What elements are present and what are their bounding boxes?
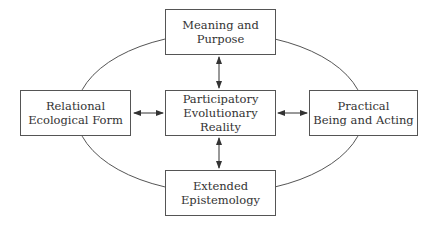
node-label-line: Being and Acting: [313, 113, 413, 127]
diagram-canvas: Meaning and Purpose Relational Ecologica…: [0, 0, 437, 228]
node-label-line: Evolutionary Reality: [166, 106, 275, 134]
node-label-line: Practical: [338, 99, 390, 113]
node-label-line: Ecological Form: [28, 113, 123, 127]
node-label-line: Purpose: [197, 32, 245, 46]
node-label-line: Meaning and: [182, 18, 259, 32]
node-participatory-evolutionary-reality: Participatory Evolutionary Reality: [165, 90, 276, 136]
node-label-line: Participatory: [183, 92, 259, 106]
node-extended-epistemology: Extended Epistemology: [165, 170, 276, 216]
node-relational-ecological-form: Relational Ecological Form: [20, 90, 131, 136]
node-label-line: Extended: [193, 179, 248, 193]
node-label-line: Relational: [46, 99, 105, 113]
node-practical-being-and-acting: Practical Being and Acting: [309, 90, 418, 136]
node-label-line: Epistemology: [181, 193, 260, 207]
node-meaning-and-purpose: Meaning and Purpose: [165, 9, 276, 55]
